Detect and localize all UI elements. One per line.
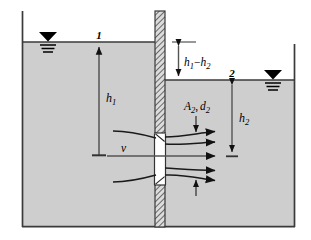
orifice-flow-figure: 1 h1 h1−h2 2 h2 xyxy=(0,0,311,240)
label-comma: , xyxy=(195,100,198,113)
divider-wall xyxy=(154,11,166,227)
h1-minus-h2-label: h1−h2 xyxy=(184,56,211,71)
h1-subscript: 1 xyxy=(112,97,116,107)
water-left xyxy=(22,42,156,227)
velocity-label: v xyxy=(121,142,127,154)
diagram-canvas: 1 h1 h1−h2 2 h2 xyxy=(0,0,311,240)
hd-sub2: 2 xyxy=(206,61,211,71)
station-2-label: 2 xyxy=(228,67,235,79)
station-1-label: 1 xyxy=(96,29,102,41)
